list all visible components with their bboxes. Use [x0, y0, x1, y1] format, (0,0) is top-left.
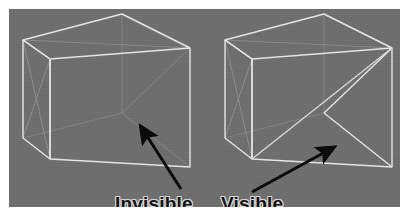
cube-visible-top-diagonal-2 — [225, 40, 392, 48]
label-visible: Visible — [221, 194, 283, 207]
cube-invisible-key-diagonal — [122, 48, 190, 113]
cubes-scene — [9, 9, 400, 207]
cube-visible-outline — [225, 14, 392, 167]
invisible-arrow — [145, 133, 181, 189]
cube-visible-front-face-diagonal — [252, 48, 392, 159]
cube-visible-key-diagonal — [324, 48, 392, 113]
cube-invisible-hidden-edges — [23, 14, 190, 167]
figure-container: Invisible Visible — [0, 0, 412, 221]
cube-invisible-key-diagonal-lower — [122, 113, 190, 167]
illustration-panel: Invisible Visible — [9, 9, 400, 207]
cube-visible-hidden-edges — [225, 14, 324, 138]
cube-invisible — [23, 14, 190, 167]
cube-invisible-top-diagonal-2 — [23, 40, 190, 48]
visible-arrow — [252, 151, 327, 192]
cube-visible-key-diagonal-lower — [324, 113, 392, 167]
cube-invisible-outline — [23, 14, 190, 167]
label-invisible: Invisible — [115, 194, 193, 207]
cube-visible — [225, 14, 392, 167]
